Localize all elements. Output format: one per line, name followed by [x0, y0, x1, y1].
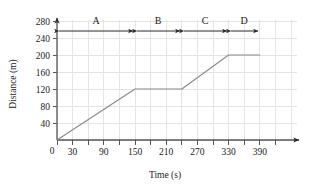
x-tick-270: 270	[190, 147, 205, 157]
y-tick-280: 280	[36, 17, 51, 27]
y-tick-240: 240	[36, 34, 51, 44]
distance-time-chart: 280 240 200 160 120 80 40 0 30 90 150 21…	[0, 0, 312, 190]
x-tick-0: 0	[50, 146, 55, 156]
x-tick-30: 30	[68, 147, 78, 157]
y-tick-200: 200	[36, 51, 51, 61]
y-tick-120: 120	[36, 85, 51, 95]
x-tick-labels: 0 30 90 150 210 270 330 390	[50, 146, 268, 157]
y-tick-160: 160	[36, 68, 51, 78]
y-tick-80: 80	[41, 102, 51, 112]
y-axis-title: Distance (m)	[8, 59, 19, 108]
segment-label-c: C	[202, 15, 209, 26]
y-tick-40: 40	[41, 119, 51, 129]
x-tick-330: 330	[221, 147, 236, 157]
x-tick-marks	[57, 140, 275, 145]
x-axis-title: Time (s)	[149, 170, 181, 181]
segment-label-a: A	[92, 15, 100, 26]
x-tick-390: 390	[253, 147, 268, 157]
segment-label-b: B	[155, 15, 162, 26]
x-tick-150: 150	[128, 147, 143, 157]
data-line-distance	[57, 55, 260, 140]
x-tick-90: 90	[99, 147, 109, 157]
axis-lines	[57, 18, 299, 140]
grid-lines	[57, 20, 297, 140]
y-tick-labels: 280 240 200 160 120 80 40	[36, 17, 51, 129]
segment-label-d: D	[240, 15, 247, 26]
x-tick-210: 210	[159, 147, 174, 157]
chart-svg: 280 240 200 160 120 80 40 0 30 90 150 21…	[0, 0, 312, 190]
